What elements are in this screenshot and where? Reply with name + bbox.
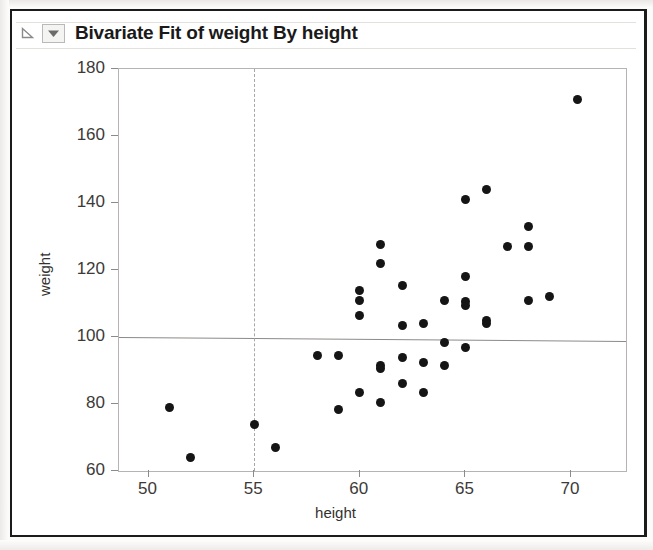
data-point[interactable] [482, 185, 491, 194]
data-point[interactable] [524, 242, 533, 251]
y-tick-label: 100 [77, 326, 105, 346]
data-point[interactable] [573, 95, 582, 104]
data-point[interactable] [398, 281, 407, 290]
data-point[interactable] [545, 292, 554, 301]
bivariate-scatter-chart: 6080100120140160180 5055606570 weight he… [14, 53, 641, 533]
data-point[interactable] [250, 420, 259, 429]
y-tick-label: 120 [77, 259, 105, 279]
data-point[interactable] [461, 195, 470, 204]
data-point[interactable] [398, 321, 407, 330]
y-tick-mark [111, 403, 118, 404]
x-tick-label: 60 [349, 479, 368, 499]
y-tick-label: 160 [77, 125, 105, 145]
scan-edge-left [0, 0, 9, 550]
data-point[interactable] [440, 361, 449, 370]
x-tick-label: 70 [561, 479, 580, 499]
data-point[interactable] [186, 453, 195, 462]
plot-frame [118, 68, 627, 472]
data-point[interactable] [398, 379, 407, 388]
data-point[interactable] [355, 296, 364, 305]
red-triangle-menu-icon[interactable] [42, 24, 65, 43]
x-tick-mark [464, 470, 465, 477]
x-tick-mark [570, 470, 571, 477]
vertical-reference-line [254, 69, 255, 471]
x-axis-title: height [315, 504, 356, 521]
y-tick-label: 60 [86, 460, 105, 480]
data-point[interactable] [398, 353, 407, 362]
x-tick-label: 55 [244, 479, 263, 499]
data-point[interactable] [419, 358, 428, 367]
data-point[interactable] [419, 319, 428, 328]
mean-line [119, 337, 626, 342]
data-point[interactable] [334, 405, 343, 414]
data-point[interactable] [419, 388, 428, 397]
x-tick-label: 50 [138, 479, 157, 499]
data-point[interactable] [461, 301, 470, 310]
data-point[interactable] [376, 364, 385, 373]
y-tick-label: 80 [86, 393, 105, 413]
y-tick-label: 140 [77, 192, 105, 212]
x-tick-mark [359, 470, 360, 477]
data-point[interactable] [271, 443, 280, 452]
y-tick-mark [111, 470, 118, 471]
data-point[interactable] [376, 240, 385, 249]
report-title-bar: Bivariate Fit of weight By height [14, 13, 641, 53]
data-point[interactable] [376, 398, 385, 407]
data-point[interactable] [482, 319, 491, 328]
y-axis-title: weight [36, 252, 53, 295]
data-point[interactable] [355, 388, 364, 397]
scan-edge-top [0, 0, 653, 8]
x-tick-label: 65 [455, 479, 474, 499]
y-tick-mark [111, 135, 118, 136]
data-point[interactable] [461, 343, 470, 352]
data-point[interactable] [376, 259, 385, 268]
scan-edge-bottom [0, 540, 653, 550]
data-point[interactable] [440, 296, 449, 305]
page-title: Bivariate Fit of weight By height [75, 22, 358, 44]
data-point[interactable] [355, 286, 364, 295]
data-point[interactable] [524, 296, 533, 305]
data-point[interactable] [165, 403, 174, 412]
data-point[interactable] [313, 351, 322, 360]
data-point[interactable] [461, 272, 470, 281]
y-tick-mark [111, 202, 118, 203]
y-tick-mark [111, 68, 118, 69]
disclosure-triangle-icon[interactable] [20, 25, 36, 41]
x-tick-mark [253, 470, 254, 477]
y-tick-mark [111, 269, 118, 270]
y-tick-mark [111, 336, 118, 337]
data-point[interactable] [334, 351, 343, 360]
data-point[interactable] [355, 311, 364, 320]
jmp-report-window: Bivariate Fit of weight By height 608010… [0, 0, 653, 550]
data-point[interactable] [524, 222, 533, 231]
data-point[interactable] [440, 338, 449, 347]
data-point[interactable] [503, 242, 512, 251]
x-tick-mark [148, 470, 149, 477]
y-tick-label: 180 [77, 58, 105, 78]
